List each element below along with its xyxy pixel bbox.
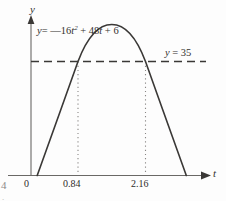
- page-edge-artifact: 4: [1, 180, 7, 191]
- x-tick-label-084: 0.84: [63, 179, 81, 189]
- level-line-lhs: y: [165, 47, 170, 58]
- parabola-curve: [37, 25, 186, 176]
- curve-equation-exponent: 2: [74, 24, 78, 32]
- x-tick-label-0: 0: [24, 179, 29, 189]
- curve-equation-label: y= —16t2 + 48t + 6: [37, 26, 119, 37]
- y-axis-label: y: [30, 4, 35, 15]
- curve-equation-tail: + 6: [105, 25, 119, 36]
- curve-equation-t2: t: [99, 25, 102, 36]
- page-edge-artifact-dot: .: [2, 193, 4, 201]
- level-line-label: y = 35: [165, 48, 191, 59]
- curve-equation-mid: + 48: [80, 25, 99, 36]
- x-tick-label-216: 2.16: [131, 179, 149, 189]
- y-axis: [28, 15, 35, 176]
- curve-equation-eq: = —16: [42, 25, 72, 36]
- x-axis-label: t: [213, 168, 216, 179]
- level-line-rhs: = 35: [172, 47, 191, 58]
- parabola-graph-figure: y t y= —16t2 + 48t + 6 y = 35 0 0.84 2.1…: [0, 0, 226, 201]
